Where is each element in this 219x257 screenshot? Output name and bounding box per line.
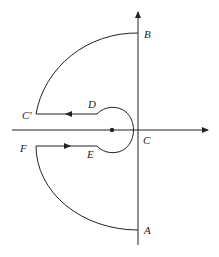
label-c-prime: C′ [22, 109, 32, 121]
label-a: A [143, 224, 151, 236]
label-b: B [144, 28, 151, 40]
label-c: C [143, 134, 151, 146]
arrow-right-icon [64, 143, 71, 149]
contour-diagram: B C′ D C F E A [0, 0, 219, 257]
outer-arc-upper [36, 33, 138, 114]
label-e: E [86, 148, 94, 160]
arrow-left-icon [65, 111, 72, 117]
label-f: F [19, 142, 27, 154]
branch-point [110, 128, 114, 132]
label-d: D [87, 98, 96, 110]
